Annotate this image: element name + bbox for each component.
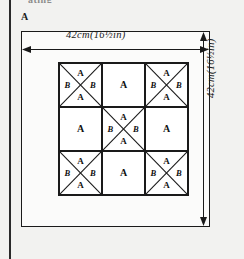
patch-label-b-left: B xyxy=(108,125,114,134)
patch-label-a-top: A xyxy=(77,69,84,78)
patch-label-b-right: B xyxy=(90,169,96,178)
height-dimension-label: 42cm(16½in) xyxy=(205,38,216,98)
patch-label-b-right: B xyxy=(90,81,96,90)
block-cell-bottom-center: A xyxy=(102,151,145,195)
quilt-block-grid: A B B A A A B B A A A xyxy=(58,62,189,196)
scanned-page-edge xyxy=(9,0,11,259)
patch-label-b-left: B xyxy=(65,169,71,178)
block-cell-middle-left: A xyxy=(59,107,102,151)
patch-label-a-top: A xyxy=(163,157,170,166)
patch-label-b-right: B xyxy=(176,81,182,90)
patch-label-b-left: B xyxy=(151,169,157,178)
figure-caption: A xyxy=(21,11,28,22)
patch-label-a-bottom: A xyxy=(77,181,84,190)
pattern-diagram-page: ating A 42cm(16½in) 42cm(16½in) A B B A … xyxy=(0,0,244,259)
patch-label-b-left: B xyxy=(151,81,157,90)
patch-label-a-center: A xyxy=(120,80,127,90)
cropped-header-text: ating xyxy=(28,0,52,3)
patch-label-a-top: A xyxy=(120,113,127,122)
width-dimension-label: 42cm(16½in) xyxy=(66,29,126,40)
patch-label-a-bottom: A xyxy=(163,181,170,190)
block-cell-center: A B B A xyxy=(102,107,145,151)
patch-label-b-left: B xyxy=(65,81,71,90)
patch-label-a-center: A xyxy=(77,124,84,134)
patch-label-a-bottom: A xyxy=(120,137,127,146)
width-dimension-arrow xyxy=(22,44,209,55)
patch-label-a-center: A xyxy=(120,168,127,178)
block-cell-top-center: A xyxy=(102,63,145,107)
block-cell-middle-right: A xyxy=(145,107,188,151)
block-cell-top-right: A B B A xyxy=(145,63,188,107)
block-cell-bottom-left: A B B A xyxy=(59,151,102,195)
patch-label-b-right: B xyxy=(176,169,182,178)
patch-label-b-right: B xyxy=(133,125,139,134)
patch-label-a-center: A xyxy=(163,124,170,134)
patch-label-a-top: A xyxy=(77,157,84,166)
patch-label-a-bottom: A xyxy=(77,93,84,102)
block-cell-top-left: A B B A xyxy=(59,63,102,107)
patch-label-a-bottom: A xyxy=(163,93,170,102)
block-cell-bottom-right: A B B A xyxy=(145,151,188,195)
patch-label-a-top: A xyxy=(163,69,170,78)
